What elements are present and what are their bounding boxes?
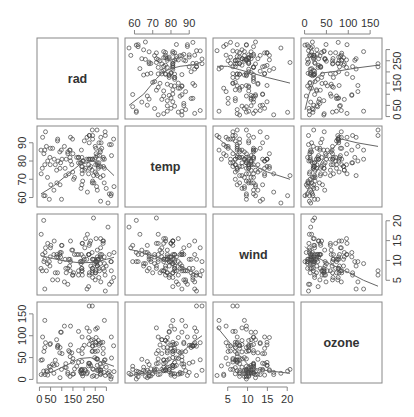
left-axis-ozone: 050100150 [16, 305, 33, 383]
svg-text:0: 0 [36, 393, 42, 405]
svg-text:20: 20 [281, 393, 293, 405]
svg-text:70: 70 [16, 173, 28, 185]
svg-text:0: 0 [16, 376, 28, 382]
svg-text:100: 100 [339, 17, 357, 29]
panel-wind-vs-ozone [301, 214, 382, 295]
diagonal-panel-temp: temp [125, 126, 206, 207]
right-axis-rad: 050150250 [386, 50, 403, 120]
svg-text:250: 250 [391, 52, 403, 70]
svg-text:5: 5 [391, 277, 403, 283]
svg-text:150: 150 [361, 17, 379, 29]
panel-ozone-vs-temp [125, 302, 206, 383]
svg-text:50: 50 [16, 351, 28, 363]
svg-text:70: 70 [147, 17, 159, 29]
svg-text:80: 80 [165, 17, 177, 29]
svg-text:5: 5 [225, 393, 231, 405]
panel-rad-vs-temp [125, 38, 206, 119]
panel-rad-vs-wind [213, 38, 294, 119]
panel-ozone-vs-wind [213, 302, 294, 383]
variable-label: ozone [323, 336, 359, 350]
svg-text:150: 150 [64, 393, 82, 405]
svg-text:50: 50 [44, 393, 56, 405]
diagonal-panel-ozone: ozone [301, 302, 382, 383]
panel-temp-vs-rad [37, 126, 118, 207]
svg-text:0: 0 [302, 17, 308, 29]
svg-text:150: 150 [16, 305, 28, 323]
svg-text:10: 10 [391, 254, 403, 266]
panel-rad-vs-ozone [301, 38, 382, 119]
panel-temp-vs-wind [213, 126, 294, 207]
diagonal-panel-wind: wind [213, 214, 294, 295]
svg-text:90: 90 [16, 137, 28, 149]
svg-text:50: 50 [320, 17, 332, 29]
svg-text:250: 250 [86, 393, 104, 405]
top-axis-temp: 60708090 [128, 17, 195, 34]
diagonal-panel-rad: rad [37, 38, 118, 119]
bottom-axis-wind: 5101520 [225, 387, 294, 405]
panel-ozone-vs-rad [37, 302, 118, 383]
left-axis-temp: 60708090 [16, 137, 33, 204]
svg-text:0: 0 [391, 114, 403, 120]
panel-wind-vs-rad [37, 214, 118, 295]
svg-text:80: 80 [16, 155, 28, 167]
svg-text:15: 15 [261, 393, 273, 405]
top-axis-ozone: 050100150 [302, 17, 380, 34]
svg-text:150: 150 [391, 74, 403, 92]
svg-text:10: 10 [241, 393, 253, 405]
variable-label: rad [68, 72, 87, 86]
bottom-axis-rad: 050150250 [36, 387, 106, 405]
svg-text:15: 15 [391, 234, 403, 246]
svg-text:50: 50 [391, 99, 403, 111]
svg-text:90: 90 [183, 17, 195, 29]
variable-label: temp [151, 160, 181, 174]
svg-text:20: 20 [391, 215, 403, 227]
svg-text:60: 60 [16, 191, 28, 203]
panel-temp-vs-ozone [301, 126, 382, 207]
variable-label: wind [238, 248, 267, 262]
right-axis-wind: 5101520 [386, 215, 403, 284]
scatterplot-matrix: radtempwindozone607080900501001500501502… [0, 0, 414, 417]
svg-text:100: 100 [16, 327, 28, 345]
svg-text:60: 60 [128, 17, 140, 29]
panel-wind-vs-temp [125, 214, 206, 295]
